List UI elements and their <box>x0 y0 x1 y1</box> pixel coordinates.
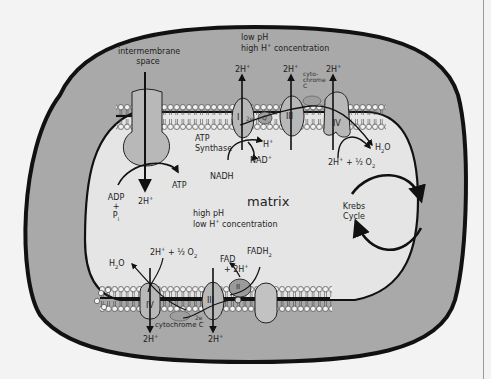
text: O <box>185 248 194 257</box>
outer-condition-label: low pH high H+ concentration <box>241 34 329 53</box>
text: O <box>363 158 372 167</box>
adp-pi-label: ADP + Pi <box>106 193 126 220</box>
text: 2H <box>328 158 339 167</box>
mitochondrion-diagram: intermembrane space low pH high H+ conce… <box>0 0 491 379</box>
text: 2H <box>143 335 154 344</box>
sub: i <box>118 216 119 222</box>
text: Synthase <box>195 144 232 154</box>
text: 2H <box>150 248 161 257</box>
text: NAD <box>250 156 268 165</box>
intermembrane-label-line1: intermembrane <box>118 48 178 56</box>
complex-III-bottom-label: III <box>207 297 214 305</box>
proton-pumped-complex-IV: 2H+ <box>326 66 341 74</box>
sup: + <box>244 263 248 269</box>
text: concentration <box>220 220 278 229</box>
cytochrome-c-bottom-label: cytochrome C <box>155 322 204 329</box>
cytochrome-c-top <box>303 96 321 106</box>
sup: + <box>269 138 273 144</box>
complex-IV-label: IV <box>333 120 341 128</box>
fad-label: FAD <box>220 256 236 264</box>
proton-out-complex-III: 2H+ <box>208 336 223 344</box>
text: ADP <box>106 193 126 202</box>
proton-pumped-complex-I: 2H+ <box>235 66 250 74</box>
oxygen-reactant-bottom: 2H+ + ½ O2 <box>150 249 197 257</box>
cytochrome-c-bottom <box>170 311 190 321</box>
oxygen-reactant-top: 2H+ + ½ O2 <box>328 159 375 167</box>
text: FADH <box>247 247 269 256</box>
text: + 2H <box>224 265 244 274</box>
intermembrane-label-line2: space <box>118 58 178 66</box>
atp-label: ATP <box>172 182 187 190</box>
nad-plus-label: NAD+ <box>250 157 272 165</box>
sub: 2 <box>269 252 272 258</box>
diagram-svg <box>0 0 491 379</box>
matrix-ph-label: high pH <box>193 210 278 218</box>
text: 2H <box>326 65 337 74</box>
sup: + <box>294 63 298 69</box>
text: 2H <box>283 65 294 74</box>
sub: 2 <box>372 163 375 169</box>
text: 2H <box>208 335 219 344</box>
cytochrome-c-top-label: cyto- chrome C <box>303 71 326 89</box>
sup: + <box>149 195 153 201</box>
text: 2H <box>235 65 246 74</box>
complex-IV-bottom-label: IV <box>146 302 154 310</box>
frame-border <box>483 0 484 379</box>
proton-pumped-complex-III: 2H+ <box>283 66 298 74</box>
complex-III-label: III <box>286 113 293 121</box>
proton-out-complex-IV: 2H+ <box>143 336 158 344</box>
text: + <box>165 248 177 257</box>
text: ½ <box>177 248 185 257</box>
atp-synthase-label: ATP Synthase <box>195 134 232 154</box>
h2o-bottom-label: H2O <box>109 260 125 268</box>
text: 2H <box>138 197 149 206</box>
sup: + <box>246 63 250 69</box>
text: high H <box>241 44 267 53</box>
text: low H <box>193 220 215 229</box>
text: O <box>118 259 124 268</box>
text: Cycle <box>334 212 374 222</box>
h2o-top-label: H2O <box>375 144 391 152</box>
h-plus-label: H+ <box>263 141 273 149</box>
text: + <box>343 158 355 167</box>
matrix-label: matrix <box>247 195 289 208</box>
sup: + <box>268 154 272 160</box>
fad-protons-label: + 2H+ <box>224 266 249 274</box>
fadh2-label: FADH2 <box>247 248 272 256</box>
text: C <box>303 83 326 89</box>
text: ATP <box>195 134 232 144</box>
text: O <box>384 143 390 152</box>
krebs-cycle-label: Krebs Cycle <box>334 202 374 222</box>
sup: + <box>154 333 158 339</box>
sup: + <box>337 63 341 69</box>
sup: + <box>219 333 223 339</box>
text: ½ <box>355 158 363 167</box>
outer-proton-concentration: high H+ concentration <box>241 45 329 53</box>
text: Krebs <box>334 202 374 212</box>
sub: 2 <box>194 253 197 259</box>
text: concentration <box>271 44 329 53</box>
complex-IV <box>324 92 351 137</box>
complex-II-bottom-label: II <box>236 284 240 291</box>
unlabeled-protein-bottom <box>255 283 277 323</box>
nadh-label: NADH <box>210 173 234 181</box>
outer-ph-label: low pH <box>241 34 329 42</box>
complex-I-label: I <box>237 114 239 122</box>
q-label: Q <box>262 115 267 121</box>
text: + <box>106 202 126 211</box>
matrix-proton-concentration: low H+ concentration <box>193 221 278 229</box>
intermembrane-label: intermembrane space <box>118 48 178 66</box>
atp-synthase-proton-label: 2H+ <box>138 198 153 206</box>
matrix-condition-label: high pH low H+ concentration <box>193 210 278 229</box>
two-electrons-label: 2e <box>246 116 254 122</box>
